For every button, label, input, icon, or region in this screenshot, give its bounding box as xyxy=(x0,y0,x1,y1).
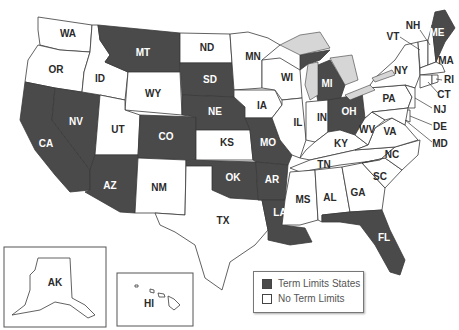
label-sc: SC xyxy=(373,171,387,182)
legend: Term Limits States No Term Limits xyxy=(253,271,364,313)
leader-de xyxy=(410,116,432,125)
label-sd: SD xyxy=(203,74,217,85)
legend-label-term-limits: Term Limits States xyxy=(278,278,360,289)
label-id: ID xyxy=(95,73,105,84)
label-wy: WY xyxy=(145,88,161,99)
label-ga: GA xyxy=(351,187,366,198)
legend-item-no-term-limits: No Term Limits xyxy=(262,293,345,304)
label-ri: RI xyxy=(444,74,454,85)
label-in: IN xyxy=(317,112,327,123)
label-va: VA xyxy=(383,126,396,137)
label-mt: MT xyxy=(136,47,150,58)
label-vt: VT xyxy=(387,31,400,42)
label-tn: TN xyxy=(317,159,330,170)
label-ma: MA xyxy=(438,55,454,66)
label-ut: UT xyxy=(111,124,124,135)
label-tx: TX xyxy=(217,215,230,226)
label-ny: NY xyxy=(394,65,408,76)
legend-item-term-limits: Term Limits States xyxy=(262,278,360,289)
label-ar: AR xyxy=(265,174,280,185)
label-or: OR xyxy=(49,64,65,75)
us-map: WA OR CA NV ID MT WY UT AZ CO NM ND SD N… xyxy=(0,0,459,330)
term-limits-swatch xyxy=(262,279,272,289)
label-oh: OH xyxy=(342,106,357,117)
label-me: ME xyxy=(430,27,445,38)
label-ky: KY xyxy=(334,138,348,149)
label-nh: NH xyxy=(406,20,420,31)
label-hi: HI xyxy=(144,298,154,309)
label-ne: NE xyxy=(208,106,222,117)
label-wi: WI xyxy=(281,72,293,83)
label-ak: AK xyxy=(48,277,63,288)
label-ct: CT xyxy=(437,89,450,100)
label-mo: MO xyxy=(260,137,276,148)
label-ca: CA xyxy=(39,138,53,149)
label-il: IL xyxy=(294,117,303,128)
label-az: AZ xyxy=(103,180,116,191)
leader-nj xyxy=(415,98,432,108)
label-ms: MS xyxy=(296,194,311,205)
state-vt[interactable] xyxy=(418,40,428,68)
label-nv: NV xyxy=(69,116,83,127)
lake-michigan xyxy=(305,62,318,100)
label-nd: ND xyxy=(200,42,214,53)
label-ks: KS xyxy=(220,137,234,148)
label-al: AL xyxy=(323,192,336,203)
label-la: LA xyxy=(273,207,286,218)
label-nj: NJ xyxy=(434,104,447,115)
legend-label-no-term-limits: No Term Limits xyxy=(278,293,345,304)
label-fl: FL xyxy=(378,232,390,243)
label-mn: MN xyxy=(245,51,261,62)
no-term-limits-swatch xyxy=(262,294,272,304)
label-wa: WA xyxy=(60,28,76,39)
label-ia: IA xyxy=(257,100,267,111)
state-ct[interactable] xyxy=(420,75,432,88)
label-nm: NM xyxy=(151,182,167,193)
label-wv: WV xyxy=(359,124,375,135)
label-nc: NC xyxy=(385,149,399,160)
label-pa: PA xyxy=(382,93,395,104)
label-ok: OK xyxy=(226,172,242,183)
label-co: CO xyxy=(159,131,174,142)
label-md: MD xyxy=(432,138,448,149)
label-de: DE xyxy=(433,121,447,132)
label-mi: MI xyxy=(321,78,332,89)
state-fl[interactable] xyxy=(322,210,405,275)
hawaii-inset xyxy=(117,273,193,326)
